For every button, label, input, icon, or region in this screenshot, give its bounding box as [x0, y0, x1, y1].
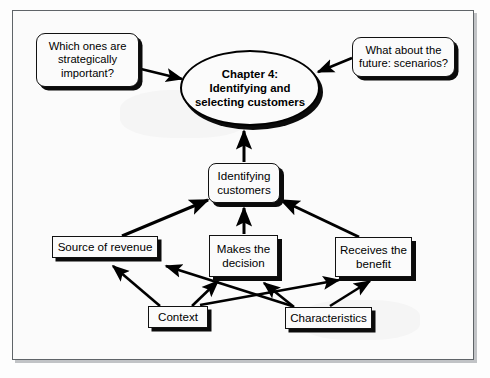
node-receives-the-benefit[interactable]: Receives the benefit	[335, 237, 412, 277]
node-characteristics[interactable]: Characteristics	[285, 307, 372, 329]
callout-strategic-importance[interactable]: Which ones are strategically important?	[36, 33, 139, 87]
node-context[interactable]: Context	[148, 306, 208, 328]
receives-benefit-line1: Receives the	[340, 243, 407, 256]
diagram-page: Chapter 4: Identifying and selecting cus…	[0, 0, 490, 378]
identifying-line2: customers	[217, 183, 270, 196]
center-node-chapter[interactable]: Chapter 4: Identifying and selecting cus…	[180, 50, 320, 126]
arrow-source-to-identifying	[122, 200, 208, 236]
arrow-characteristics-to-benefit	[330, 281, 370, 306]
identifying-line1: Identifying	[218, 169, 271, 182]
node-makes-the-decision[interactable]: Makes the decision	[209, 235, 278, 277]
node-identifying-customers[interactable]: Identifying customers	[208, 163, 280, 203]
callout-left-line1: Which ones are	[49, 40, 127, 52]
arrow-characteristics-to-decision	[264, 283, 294, 307]
callout-future-scenarios[interactable]: What about the future: scenarios?	[352, 37, 455, 77]
receives-benefit-line2: benefit	[356, 257, 391, 270]
node-source-of-revenue[interactable]: Source of revenue	[52, 236, 158, 258]
makes-decision-line1: Makes the	[217, 242, 271, 255]
arrow-benefit-to-identifying	[281, 200, 359, 237]
makes-decision-line2: decision	[222, 256, 265, 269]
center-title-line3: selecting customers	[195, 96, 305, 108]
source-of-revenue-label: Source of revenue	[55, 240, 156, 254]
arrow-context-to-source	[113, 266, 160, 306]
arrow-callout-right-to-center	[318, 58, 352, 72]
callout-left-line3: important?	[61, 67, 114, 79]
characteristics-label: Characteristics	[287, 311, 370, 325]
callout-right-line1: What about the	[366, 44, 442, 56]
center-title-line2: Identifying and	[210, 82, 291, 94]
center-title-line1: Chapter 4:	[222, 68, 278, 80]
callout-left-line2: strategically	[58, 53, 117, 65]
arrow-callout-left-to-center	[141, 69, 182, 79]
context-label: Context	[155, 310, 201, 324]
callout-right-line2: future: scenarios?	[359, 57, 448, 69]
